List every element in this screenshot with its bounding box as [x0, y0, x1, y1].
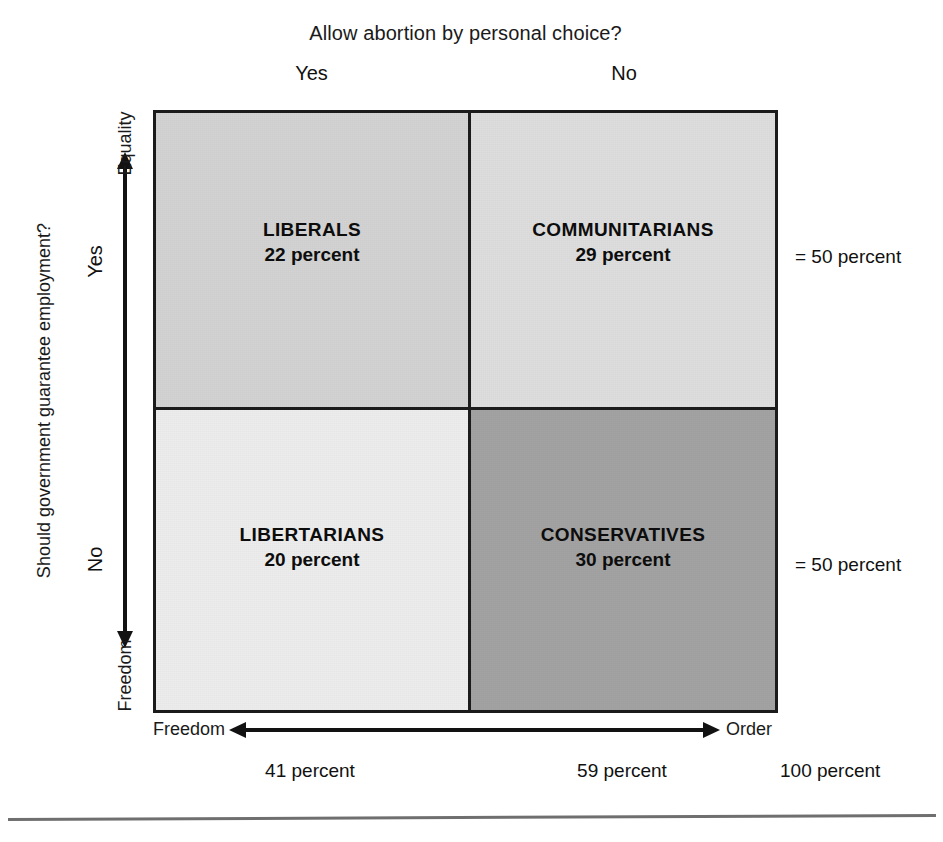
quadrant-matrix: LIBERALS 22 percent COMMUNITARIANS 29 pe… [153, 110, 778, 713]
page-divider-rule [8, 814, 936, 821]
quadrant-liberals-percent: 22 percent [263, 242, 361, 267]
vertical-axis-shaft [123, 166, 127, 634]
row-total-bottom: = 50 percent [795, 554, 901, 576]
quadrant-libertarians-text: LIBERTARIANS 20 percent [240, 522, 385, 572]
quadrant-communitarians-text: COMMUNITARIANS 29 percent [532, 217, 714, 267]
chart-title: Allow abortion by personal choice? [153, 22, 778, 45]
quadrant-communitarians-name: COMMUNITARIANS [532, 217, 714, 242]
quadrant-liberals[interactable]: LIBERALS 22 percent [156, 113, 471, 410]
x-axis-left-label: Freedom [153, 719, 225, 740]
row-header-yes: Yes [84, 202, 107, 322]
grand-total: 100 percent [780, 760, 940, 782]
quadrant-libertarians[interactable]: LIBERTARIANS 20 percent [156, 410, 471, 710]
quadrant-liberals-text: LIBERALS 22 percent [263, 217, 361, 267]
y-axis-top-label: Equality [115, 69, 136, 219]
quadrant-conservatives-percent: 30 percent [541, 547, 706, 572]
figure-canvas: Allow abortion by personal choice? Yes N… [0, 0, 943, 842]
quadrant-communitarians[interactable]: COMMUNITARIANS 29 percent [471, 113, 775, 410]
horizontal-axis-arrow [229, 722, 720, 738]
y-axis-bottom-label: Freedom [115, 601, 136, 751]
quadrant-conservatives-text: CONSERVATIVES 30 percent [541, 522, 706, 572]
column-total-right: 59 percent [512, 760, 732, 782]
row-total-top: = 50 percent [795, 246, 901, 268]
quadrant-conservatives-name: CONSERVATIVES [541, 522, 706, 547]
horizontal-axis-shaft [243, 728, 706, 732]
quadrant-liberals-name: LIBERALS [263, 217, 361, 242]
quadrant-communitarians-percent: 29 percent [532, 242, 714, 267]
row-header-no: No [84, 500, 107, 620]
arrow-right-icon [703, 722, 720, 738]
quadrant-libertarians-percent: 20 percent [240, 547, 385, 572]
quadrant-conservatives[interactable]: CONSERVATIVES 30 percent [471, 410, 775, 710]
column-total-left: 41 percent [200, 760, 420, 782]
y-axis-question: Should government guarantee employment? [34, 191, 55, 611]
column-header-no: No [470, 62, 778, 85]
x-axis-right-label: Order [726, 719, 772, 740]
vertical-axis-arrow [117, 152, 133, 648]
quadrant-libertarians-name: LIBERTARIANS [240, 522, 385, 547]
column-header-yes: Yes [153, 62, 470, 85]
